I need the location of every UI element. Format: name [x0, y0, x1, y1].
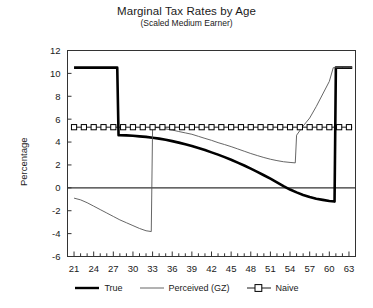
y-tick-label: 10 — [50, 68, 61, 79]
series-marker-naive — [248, 125, 253, 130]
series-marker-naive — [199, 125, 204, 130]
series-marker-naive — [101, 125, 106, 130]
legend-label-true: True — [104, 283, 122, 293]
x-axis-ticks: 212427303336394245485154576063 — [69, 252, 354, 274]
chart-figure: Marginal Tax Rates by Age (Scaled Medium… — [0, 0, 373, 308]
series-marker-naive — [337, 125, 342, 130]
series-marker-naive — [287, 125, 292, 130]
x-tick-label: 45 — [226, 263, 237, 274]
series-line-perceived-gz — [74, 68, 352, 232]
series-marker-naive — [150, 125, 155, 130]
x-tick-label: 27 — [108, 263, 119, 274]
series-marker-naive — [317, 125, 322, 130]
x-tick-label: 63 — [344, 263, 355, 274]
series-marker-naive — [179, 125, 184, 130]
x-tick-label: 39 — [187, 263, 198, 274]
series-marker-naive — [71, 125, 76, 130]
series-marker-naive — [327, 125, 332, 130]
data-series-group — [71, 68, 352, 232]
y-tick-label: -2 — [52, 205, 60, 216]
y-tick-label: -4 — [52, 228, 60, 239]
series-marker-naive — [81, 125, 86, 130]
x-tick-label: 30 — [128, 263, 139, 274]
series-marker-naive — [229, 125, 234, 130]
series-marker-naive — [238, 125, 243, 130]
x-tick-label: 48 — [245, 263, 256, 274]
x-tick-label: 57 — [304, 263, 315, 274]
series-marker-naive — [111, 125, 116, 130]
series-marker-naive — [189, 125, 194, 130]
x-tick-label: 60 — [324, 263, 335, 274]
legend-swatch-perceived — [139, 283, 165, 293]
legend-swatch-true — [74, 283, 100, 293]
series-marker-naive — [346, 125, 351, 130]
x-tick-label: 42 — [206, 263, 217, 274]
x-tick-label: 54 — [285, 263, 296, 274]
y-tick-label: 0 — [55, 182, 60, 193]
plot-area: 121086420-2-4-6 212427303336394245485154… — [0, 0, 373, 308]
series-marker-naive — [307, 125, 312, 130]
series-marker-naive — [268, 125, 273, 130]
x-tick-label: 51 — [265, 263, 276, 274]
series-marker-naive — [278, 125, 283, 130]
series-line-true — [74, 68, 352, 202]
series-marker-naive — [130, 125, 135, 130]
series-marker-naive — [170, 125, 175, 130]
y-tick-label: -6 — [52, 251, 60, 262]
y-axis-ticks: 121086420-2-4-6 — [50, 45, 72, 262]
x-tick-label: 36 — [167, 263, 178, 274]
legend-item-naive: Naive — [246, 283, 299, 293]
series-marker-naive — [160, 125, 165, 130]
y-tick-label: 12 — [50, 45, 61, 56]
y-tick-label: 2 — [55, 159, 60, 170]
series-marker-naive — [297, 125, 302, 130]
y-tick-label: 8 — [55, 91, 60, 102]
y-tick-label: 6 — [55, 114, 60, 125]
series-marker-naive — [209, 125, 214, 130]
series-marker-naive — [219, 125, 224, 130]
x-tick-label: 21 — [69, 263, 80, 274]
legend-label-perceived: Perceived (GZ) — [169, 283, 230, 293]
series-marker-naive — [121, 125, 126, 130]
series-marker-naive — [91, 125, 96, 130]
legend-item-perceived: Perceived (GZ) — [139, 283, 230, 293]
legend-swatch-naive — [246, 283, 272, 293]
legend-item-true: True — [74, 283, 122, 293]
chart-legend: True Perceived (GZ) Naive — [0, 283, 373, 293]
x-tick-label: 24 — [88, 263, 99, 274]
y-tick-label: 4 — [55, 136, 60, 147]
series-marker-naive — [140, 125, 145, 130]
x-tick-label: 33 — [147, 263, 158, 274]
legend-label-naive: Naive — [276, 283, 299, 293]
series-marker-naive — [258, 125, 263, 130]
